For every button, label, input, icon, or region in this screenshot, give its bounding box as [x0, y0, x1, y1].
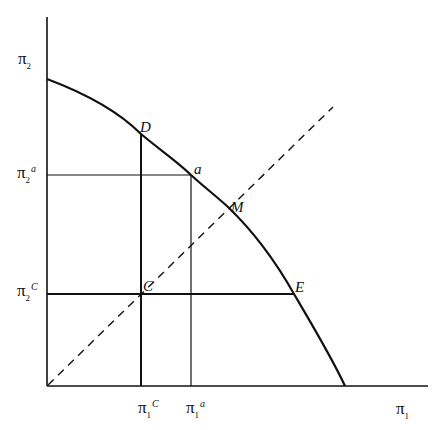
x-axis-label: π1: [396, 400, 409, 421]
x-tick-pi1-C: π1C: [138, 399, 159, 420]
y-tick-pi2-C: π2C: [17, 282, 38, 303]
frontier-curve: [47, 79, 345, 386]
point-label-E: E: [295, 280, 304, 295]
y-axis-label: π2: [18, 50, 31, 71]
x-tick-pi1-a: π1a: [186, 399, 205, 420]
diagram-canvas: [0, 0, 440, 430]
point-label-D: D: [140, 120, 151, 135]
frontier-diagram: π2 π1 π2a π2C π1C π1a D a M C E: [0, 0, 440, 430]
point-label-C: C: [143, 279, 153, 294]
point-label-a: a: [194, 162, 202, 177]
point-label-M: M: [231, 200, 244, 215]
y-tick-pi2-a: π2a: [17, 164, 36, 185]
